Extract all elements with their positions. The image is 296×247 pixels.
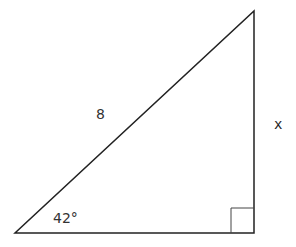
triangle-diagram: 8 x 42°	[0, 0, 296, 247]
hypotenuse-label: 8	[96, 106, 105, 122]
angle-label: 42°	[53, 210, 78, 226]
right-angle-marker	[231, 208, 254, 233]
right-triangle	[15, 11, 254, 233]
side-x-label: x	[274, 116, 282, 132]
